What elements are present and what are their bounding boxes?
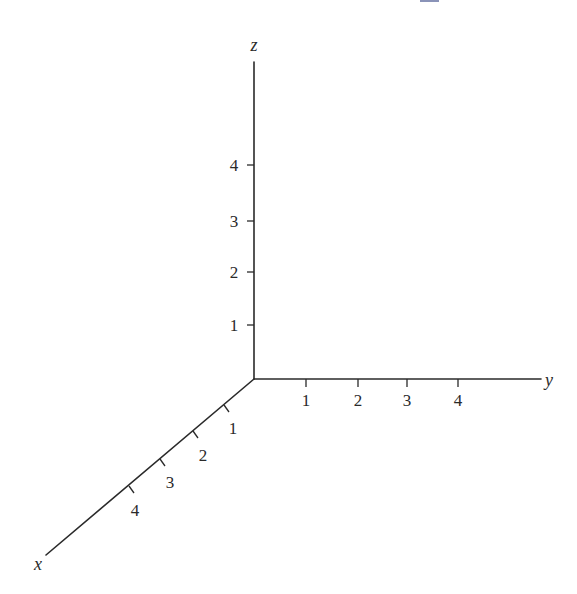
z-tick-label-4: 4 [230, 156, 239, 175]
x-ticks [129, 405, 229, 493]
y-tick-label-4: 4 [454, 391, 463, 410]
y-axis-label: y [543, 370, 553, 390]
y-tick-label-2: 2 [354, 391, 363, 410]
z-tick-label-1: 1 [230, 316, 239, 335]
y-tick-label-3: 3 [403, 391, 412, 410]
x-axis-label: x [33, 554, 42, 574]
x-axis [46, 379, 254, 555]
y-ticks [306, 379, 458, 387]
x-tick-label-3: 3 [166, 473, 175, 492]
z-tick-label-2: 2 [230, 263, 239, 282]
x-tick-label-4: 4 [131, 501, 140, 520]
z-axis-label: z [249, 35, 257, 55]
x-tick-label-1: 1 [229, 419, 238, 438]
z-ticks [247, 165, 254, 325]
x-tick-label-2: 2 [199, 446, 208, 465]
z-tick-label-3: 3 [230, 212, 239, 231]
y-tick-label-1: 1 [302, 391, 311, 410]
axes-diagram: 4 3 2 1 1 2 3 4 1 2 3 4 z y x [0, 0, 577, 594]
